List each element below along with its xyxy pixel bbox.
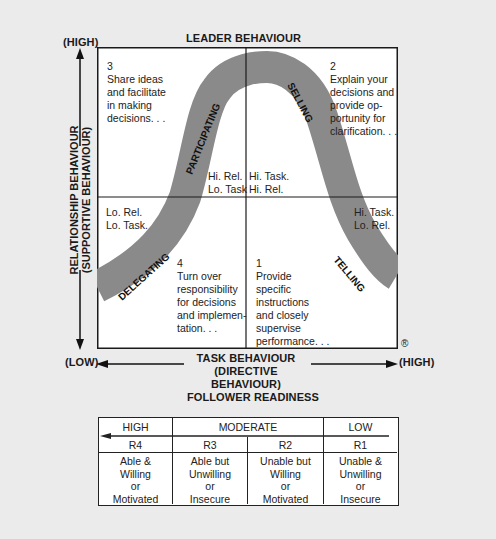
quadrant-1-line: performance. . . [256, 335, 330, 348]
quadrant-4-line: Turn over [177, 270, 246, 283]
level-low: LOW [324, 421, 397, 433]
quadrant-2-number: 2 [330, 60, 397, 73]
registered-mark: ® [401, 338, 408, 349]
y-axis-label-line1: RELATIONSHIP BEHAVIOUR [68, 125, 80, 274]
desc-line: Insecure [173, 493, 247, 506]
quadrant-2-line: decisions and [330, 86, 397, 99]
quadrant-3-number: 3 [107, 60, 166, 73]
desc-line: Motivated [248, 493, 323, 506]
leader-behaviour-title: LEADER BEHAVIOUR [186, 32, 301, 44]
desc-line: Unable but [248, 455, 323, 468]
desc-line: Insecure [324, 493, 397, 506]
desc-line: Motivated [99, 493, 172, 506]
follower-readiness-table: HIGH MODERATE LOW R4 R3 R2 R1 Able & Wil… [98, 417, 399, 506]
desc-line: or [248, 480, 323, 493]
x-axis-label: TASK BEHAVIOUR (DIRECTIVE BEHAVIOUR) [186, 352, 306, 391]
quadrant-3-text: 3 Share ideas and facilitate in making d… [107, 60, 166, 125]
quadrant-4-number: 4 [177, 257, 246, 270]
follower-readiness-title: FOLLOWER READINESS [187, 391, 319, 403]
quadrant-4-corner: Lo. Rel. Lo. Task. [106, 206, 148, 232]
corner-line: Hi. Rel. [249, 183, 289, 196]
quadrant-1-corner: Hi. Task. Lo. Rel. [354, 206, 394, 232]
quadrant-2-line: Explain your [330, 73, 397, 86]
corner-line: Hi. Rel. [208, 170, 247, 183]
quadrant-3-line: decisions. . . [107, 112, 166, 125]
level-high: HIGH [99, 421, 172, 433]
x-axis-high-label: (HIGH) [399, 356, 434, 368]
desc-line: Able & [99, 455, 172, 468]
quadrant-3-line: and facilitate [107, 86, 166, 99]
quadrant-2-corner: Hi. Task. Hi. Rel. [249, 170, 289, 196]
quadrant-1-number: 1 [256, 257, 330, 270]
corner-line: Lo. Task [208, 183, 247, 196]
x-axis-label-line1: TASK BEHAVIOUR [186, 352, 306, 365]
quadrant-2-line: clarification. . . [330, 125, 397, 138]
level-moderate: MODERATE [173, 421, 323, 433]
quadrant-4-line: tation. . . [177, 322, 246, 335]
quadrant-4-line: and implemen- [177, 309, 246, 322]
corner-line: Hi. Task. [249, 170, 289, 183]
quadrant-3-line: Share ideas [107, 73, 166, 86]
desc-r2: Unable but Willing or Motivated [248, 455, 323, 505]
desc-line: Unwilling [324, 468, 397, 481]
y-axis-high-label: (HIGH) [63, 36, 98, 48]
desc-line: Unwilling [173, 468, 247, 481]
corner-line: Hi. Task. [354, 206, 394, 219]
x-axis-label-line2: (DIRECTIVE BEHAVIOUR) [186, 365, 306, 391]
desc-line: or [173, 480, 247, 493]
desc-r4: Able & Willing or Motivated [99, 455, 172, 505]
corner-line: Lo. Rel. [354, 219, 394, 232]
quadrant-2-text: 2 Explain your decisions and provide op-… [330, 60, 397, 138]
quadrant-2-line: provide op- [330, 99, 397, 112]
desc-line: Willing [248, 468, 323, 481]
quadrant-1-line: specific [256, 283, 330, 296]
x-axis-low-label: (LOW) [65, 356, 98, 368]
corner-line: Lo. Rel. [106, 206, 148, 219]
quadrant-1-line: and closely [256, 309, 330, 322]
quadrant-1-line: instructions [256, 296, 330, 309]
code-r1: R1 [324, 439, 397, 451]
quadrant-4-text: 4 Turn over responsibility for decisions… [177, 257, 246, 335]
desc-line: or [99, 480, 172, 493]
quadrant-1-line: Provide [256, 270, 330, 283]
quadrant-4-line: for decisions [177, 296, 246, 309]
corner-line: Lo. Task. [106, 219, 148, 232]
quadrant-1-text: 1 Provide specific instructions and clos… [256, 257, 330, 348]
code-r3: R3 [173, 439, 247, 451]
y-axis-label-line2: (SUPPORTIVE BEHAVIOUR) [80, 125, 92, 274]
quadrant-4-line: responsibility [177, 283, 246, 296]
desc-line: Willing [99, 468, 172, 481]
desc-r1: Unable & Unwilling or Insecure [324, 455, 397, 505]
desc-line: Able but [173, 455, 247, 468]
desc-line: or [324, 480, 397, 493]
desc-line: Unable & [324, 455, 397, 468]
quadrant-3-corner: Hi. Rel. Lo. Task [208, 170, 247, 196]
quadrant-1-line: supervise [256, 322, 330, 335]
quadrant-2-line: portunity for [330, 112, 397, 125]
code-r4: R4 [99, 439, 172, 451]
desc-r3: Able but Unwilling or Insecure [173, 455, 247, 505]
quadrant-3-line: in making [107, 99, 166, 112]
code-r2: R2 [248, 439, 323, 451]
